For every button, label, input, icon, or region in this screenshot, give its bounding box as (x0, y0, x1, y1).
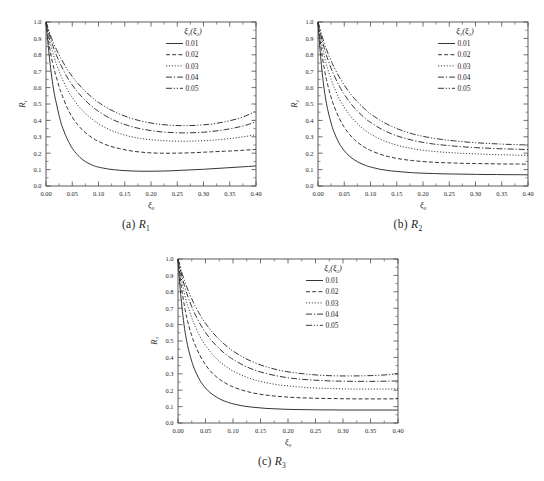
y-tick-label: 0.7 (34, 68, 43, 75)
x-tick-label: 0.00 (172, 427, 183, 434)
x-tick-label: 0.20 (145, 190, 156, 197)
legend-label-0.05: 0.05 (458, 84, 471, 93)
legend-label-0.02: 0.02 (458, 50, 471, 59)
caption-symbol: R (275, 455, 282, 467)
x-tick-label: 0.25 (172, 190, 183, 197)
y-axis-title: R3 (149, 337, 160, 346)
series-line-0.01 (318, 22, 528, 175)
y-tick-label: 0.7 (166, 305, 175, 312)
series-line-0.04 (178, 259, 398, 381)
caption-panel-b: (b) R2 (272, 218, 544, 233)
y-tick-label: 0.5 (166, 337, 174, 344)
y-tick-label: 1.0 (306, 18, 314, 25)
caption-panel-c: (c) R3 (130, 455, 414, 470)
x-tick-label: 0.05 (200, 427, 211, 434)
y-tick-label: 0.3 (34, 133, 42, 140)
x-tick-label: 0.20 (417, 190, 428, 197)
x-tick-label: 0.25 (310, 427, 321, 434)
x-tick-label: 0.10 (93, 190, 104, 197)
x-tick-label: 0.00 (312, 190, 323, 197)
y-tick-label: 1.0 (166, 255, 174, 262)
y-tick-label: 0.8 (166, 288, 174, 295)
y-tick-label: 0.4 (34, 117, 43, 124)
legend-title: ξ1(ξ2) (456, 27, 474, 37)
legend-label-0.03: 0.03 (326, 299, 339, 308)
caption-prefix: (a) (122, 218, 139, 230)
x-tick-label: 0.10 (227, 427, 238, 434)
caption-subscript: 1 (146, 224, 150, 233)
x-tick-label: 0.30 (470, 190, 481, 197)
y-tick-label: 0.1 (34, 166, 42, 173)
x-tick-label: 0.15 (119, 190, 130, 197)
legend-label-0.03: 0.03 (458, 62, 471, 71)
y-tick-label: 0.2 (306, 150, 314, 157)
y-tick-label: 0.6 (306, 84, 314, 91)
x-tick-label: 0.35 (496, 190, 507, 197)
y-tick-label: 0.8 (306, 51, 314, 58)
y-tick-label: 0.9 (166, 272, 174, 279)
x-tick-label: 0.40 (392, 427, 403, 434)
legend-title: ξ1(ξ2) (324, 264, 342, 274)
y-tick-label: 0.0 (166, 419, 174, 426)
x-tick-label: 0.10 (365, 190, 376, 197)
y-tick-label: 0.3 (166, 370, 174, 377)
x-axis-title: ξ0 (420, 200, 427, 211)
y-tick-label: 0.1 (166, 403, 174, 410)
caption-symbol: R (139, 218, 146, 230)
caption-prefix: (b) (394, 218, 411, 230)
legend-label-0.02: 0.02 (326, 287, 339, 296)
x-axis-title: ξ0 (285, 437, 292, 448)
chart-a: 0.000.050.100.150.200.250.300.350.400.00… (0, 0, 272, 218)
y-tick-label: 0.0 (34, 182, 42, 189)
legend-label-0.01: 0.01 (458, 39, 471, 48)
y-axis-title: R2 (289, 100, 300, 109)
x-tick-label: 0.35 (365, 427, 376, 434)
caption-panel-a: (a) R1 (0, 218, 272, 233)
legend-label-0.04: 0.04 (458, 73, 471, 82)
y-tick-label: 0.7 (306, 68, 315, 75)
plot-frame (178, 259, 398, 423)
legend-label-0.01: 0.01 (326, 276, 339, 285)
series-line-0.03 (318, 22, 528, 155)
series-line-0.03 (178, 259, 398, 389)
legend-label-0.03: 0.03 (186, 62, 199, 71)
x-tick-label: 0.05 (339, 190, 350, 197)
legend-label-0.02: 0.02 (186, 50, 199, 59)
x-tick-label: 0.20 (282, 427, 293, 434)
series-line-0.01 (46, 22, 256, 171)
caption-subscript: 3 (282, 461, 286, 470)
y-tick-label: 0.4 (306, 117, 315, 124)
figure-panel-b: 0.000.050.100.150.200.250.300.350.400.00… (272, 0, 544, 240)
y-axis-title: R1 (17, 100, 28, 109)
plot-frame (46, 22, 256, 186)
series-line-0.05 (46, 22, 256, 126)
series-line-0.05 (318, 22, 528, 145)
figure-panel-c: 0.000.050.100.150.200.250.300.350.400.00… (130, 237, 414, 481)
x-tick-label: 0.05 (67, 190, 78, 197)
series-line-0.02 (46, 22, 256, 153)
y-tick-label: 1.0 (34, 18, 42, 25)
x-tick-label: 0.30 (198, 190, 209, 197)
chart-b: 0.000.050.100.150.200.250.300.350.400.00… (272, 0, 544, 218)
series-line-0.05 (178, 259, 398, 376)
x-tick-label: 0.40 (522, 190, 533, 197)
y-tick-label: 0.9 (306, 35, 314, 42)
legend-label-0.04: 0.04 (326, 310, 339, 319)
x-tick-label: 0.35 (224, 190, 235, 197)
x-tick-label: 0.00 (40, 190, 51, 197)
legend-label-0.05: 0.05 (326, 321, 339, 330)
legend-title: ξ1(ξ2) (184, 27, 202, 37)
y-tick-label: 0.2 (34, 150, 42, 157)
y-tick-label: 0.2 (166, 387, 174, 394)
x-axis-title: ξ0 (148, 200, 155, 211)
y-tick-label: 0.5 (306, 100, 314, 107)
legend-label-0.04: 0.04 (186, 73, 199, 82)
x-tick-label: 0.30 (337, 427, 348, 434)
series-line-0.04 (46, 22, 256, 133)
legend-label-0.05: 0.05 (186, 84, 199, 93)
y-tick-label: 0.0 (306, 182, 314, 189)
y-tick-label: 0.6 (166, 321, 174, 328)
x-tick-label: 0.15 (391, 190, 402, 197)
caption-prefix: (c) (258, 455, 275, 467)
legend-label-0.01: 0.01 (186, 39, 199, 48)
